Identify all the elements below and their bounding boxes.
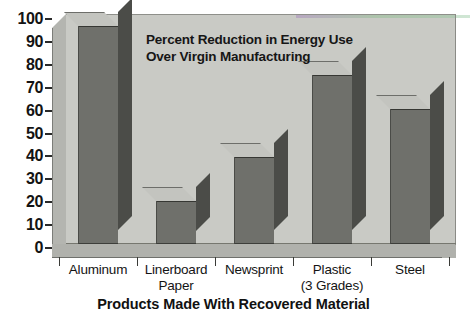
bar-top-edge: [79, 26, 118, 27]
y-axis-tick-label: 50: [26, 124, 43, 143]
chart-title-line-2: Over Virgin Manufacturing: [146, 48, 416, 65]
bar-side-face: [196, 173, 210, 231]
x-axis-category-label-line-1: Aluminum: [69, 262, 127, 277]
bar-side-face: [430, 81, 444, 230]
y-axis-tick-mark: [45, 247, 52, 249]
bar-column: [234, 157, 274, 244]
y-axis-tick-mark: [45, 110, 52, 112]
bar-side-face: [118, 0, 132, 230]
y-axis-tick-label: 90: [26, 32, 43, 51]
bar-front-face: [78, 26, 118, 244]
bar-front-face: [312, 75, 352, 244]
y-axis-tick-mark: [45, 64, 52, 66]
x-axis-category-label-line-2: (3 Grades): [293, 278, 371, 294]
x-axis-category-label: Newsprint: [215, 262, 293, 278]
bar-side-face: [352, 47, 366, 230]
x-axis-category-label: Steel: [371, 262, 449, 278]
x-axis-category-label: Plastic(3 Grades): [293, 262, 371, 294]
bar-top-face: [220, 143, 274, 157]
bar-top-edge: [391, 109, 430, 110]
y-axis-tick-label: 40: [26, 146, 43, 165]
y-axis-tick-label: 30: [26, 169, 43, 188]
bar-column: [156, 201, 196, 245]
bar-side-face: [274, 129, 288, 230]
chart-title: Percent Reduction in Energy Use Over Vir…: [146, 31, 416, 65]
y-axis-tick-mark: [45, 87, 52, 89]
bar-column: [312, 75, 352, 244]
y-axis-tick-label: 0: [35, 238, 44, 257]
x-axis-title: Products Made With Recovered Material: [0, 296, 467, 312]
chart-title-line-1: Percent Reduction in Energy Use: [146, 31, 416, 48]
x-axis-category-label: Aluminum: [59, 262, 137, 278]
y-axis-tick-label: 80: [26, 55, 43, 74]
y-axis-tick-label: 100: [18, 9, 44, 28]
x-axis-category-label-line-1: Steel: [395, 262, 425, 277]
y-axis-tick-mark: [45, 178, 52, 180]
y-axis-tick-label: 70: [26, 78, 43, 97]
x-axis-category-label-line-1: Linerboard: [145, 262, 208, 277]
bar-front-face: [390, 109, 430, 244]
bar-top-face: [64, 12, 118, 26]
y-axis-tick-mark: [45, 18, 52, 20]
x-axis-tick-mark: [449, 257, 450, 266]
bar-front-face: [156, 201, 196, 245]
bar-front-face: [234, 157, 274, 244]
y-axis-tick-label: 10: [26, 215, 43, 234]
bar-column: [78, 26, 118, 244]
bar-top-face: [376, 95, 430, 109]
x-axis-category-label-line-1: Newsprint: [225, 262, 283, 277]
x-axis-category-label-line-1: Plastic: [313, 262, 351, 277]
x-axis-category-label-line-2: Paper: [137, 278, 215, 294]
y-axis-tick-mark: [45, 155, 52, 157]
bar-column: [390, 109, 430, 244]
y-axis-tick-mark: [45, 201, 52, 203]
y-axis-tick-mark: [45, 133, 52, 135]
bar-top-edge: [235, 157, 274, 158]
y-axis-tick-label: 20: [26, 192, 43, 211]
y-axis-tick-mark: [45, 41, 52, 43]
x-axis-category-label: LinerboardPaper: [137, 262, 215, 294]
y-axis-tick-label: 60: [26, 101, 43, 120]
y-axis: 1009080706050403020100: [8, 18, 52, 254]
bar-top-face: [142, 187, 196, 201]
y-axis-tick-mark: [45, 224, 52, 226]
